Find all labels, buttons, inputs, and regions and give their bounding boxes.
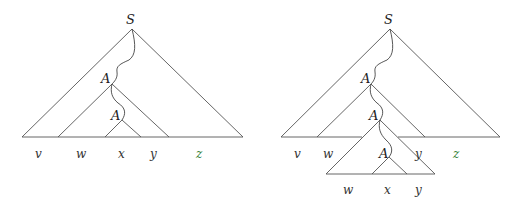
pumping-lemma-diagram: S A A v w x y z S A A A v w y z w x y [0,0,521,205]
mid-a-label: A [100,71,110,86]
root-label: S [384,12,393,27]
pumped-a-label: A [368,108,378,123]
leaf-y: y [414,147,422,161]
inner-a-label: A [110,108,120,123]
pumped-leaf-w: w [343,183,354,197]
left-parse-tree: S A A v w x y z [22,12,243,161]
pumped-leaf-x: x [384,183,391,197]
leaf-z: z [195,147,203,161]
mid-a-label: A [360,71,370,86]
leaf-w: w [76,147,87,161]
leaf-w: w [323,147,334,161]
right-parse-tree: S A A A v w y z w x y [281,12,500,197]
outer-triangle-sides [22,29,243,137]
leaf-v: v [35,147,42,161]
leaf-x: x [118,147,125,161]
inner-a-label: A [378,146,388,161]
leaf-v: v [294,147,301,161]
outer-triangle-sides [281,29,500,137]
inner-triangle-sides [372,157,407,174]
pumped-leaf-y: y [414,183,422,197]
root-label: S [126,12,135,27]
leaf-y: y [149,147,157,161]
leaf-z: z [452,147,460,161]
